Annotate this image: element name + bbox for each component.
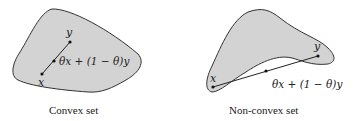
label-combination: θx + (1 − θ)y: [272, 78, 343, 90]
point-x: [211, 85, 214, 88]
nonconvex-set-figure: x y θx + (1 − θ)y Non-convex set: [207, 10, 344, 116]
label-y: y: [313, 40, 321, 53]
caption-convex: Convex set: [49, 104, 98, 116]
caption-nonconvex: Non-convex set: [229, 104, 298, 116]
point-y: [316, 54, 319, 57]
convex-set-figure: y x θx + (1 − θ)y Convex set: [13, 9, 141, 116]
convex-region: [13, 9, 141, 92]
point-combination: [52, 59, 55, 62]
point-combination: [264, 69, 267, 72]
label-combination: θx + (1 − θ)y: [59, 55, 130, 67]
label-x: x: [38, 76, 45, 89]
convexity-diagram: y x θx + (1 − θ)y Convex set x y θx + (1…: [0, 0, 357, 121]
label-x: x: [210, 72, 217, 85]
label-y: y: [65, 26, 73, 39]
point-y: [68, 40, 71, 43]
